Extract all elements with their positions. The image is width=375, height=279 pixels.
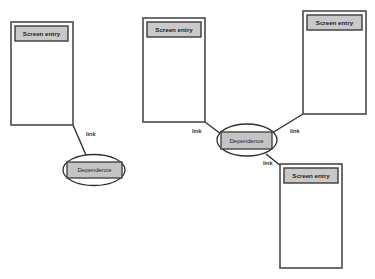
screen-entry-label: Screen entry — [155, 26, 193, 33]
link-1: link — [73, 125, 97, 155]
link-label: link — [86, 131, 97, 137]
diagram-canvas: link link link link Screen entry Screen … — [0, 0, 375, 279]
screen-entry-node-2[interactable]: Screen entry — [143, 18, 205, 122]
dependence-label: Dependence — [77, 167, 112, 173]
screen-entry-label: Screen entry — [316, 19, 354, 26]
link-label: link — [290, 128, 301, 134]
link-3: link — [272, 114, 303, 134]
link-line — [73, 125, 86, 155]
dependence-node-2[interactable]: Dependence — [217, 124, 277, 156]
link-label: link — [192, 128, 203, 134]
screen-entry-label: Screen entry — [292, 172, 330, 179]
screen-entry-node-3[interactable]: Screen entry — [303, 11, 366, 114]
dependence-node-1[interactable]: Dependence — [63, 155, 125, 186]
screen-entry-label: Screen entry — [23, 30, 61, 37]
dependence-label: Dependence — [229, 138, 264, 144]
link-4: link — [263, 154, 281, 166]
link-line — [205, 122, 221, 134]
screen-entry-node-4[interactable]: Screen entry — [280, 164, 342, 268]
link-label: link — [263, 160, 274, 166]
link-2: link — [192, 122, 221, 134]
screen-entry-node-1[interactable]: Screen entry — [11, 22, 73, 125]
